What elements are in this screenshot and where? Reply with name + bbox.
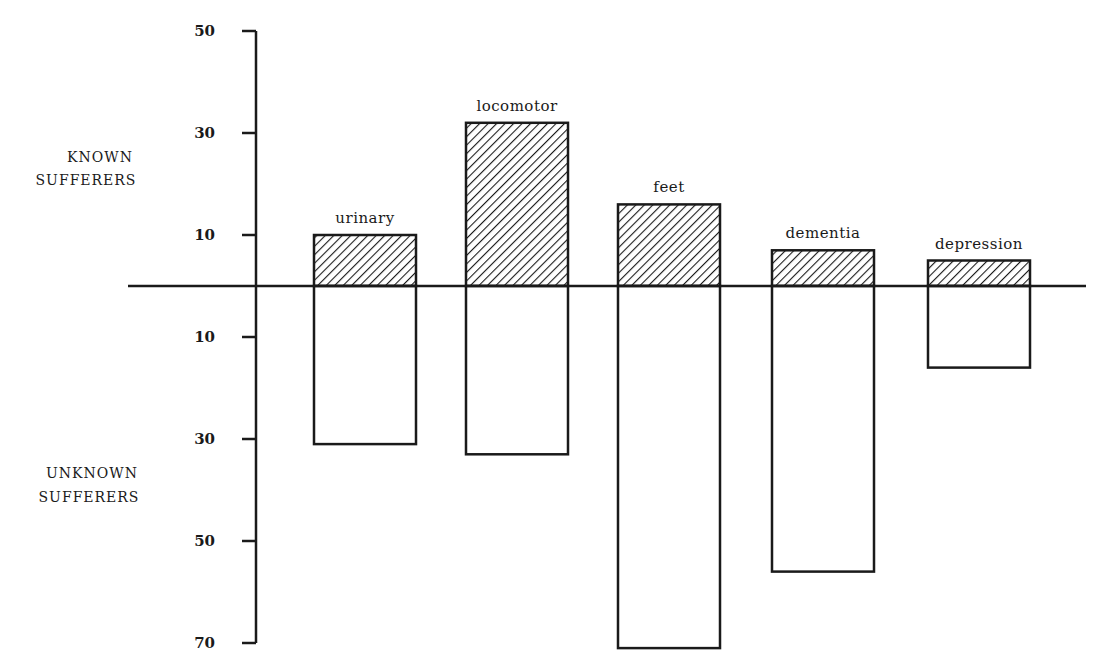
known-label-line1: KNOWN [67, 149, 133, 165]
bar-group-urinary: urinary [314, 209, 416, 444]
bar-label: urinary [335, 209, 394, 227]
bar-group-depression: depression [928, 235, 1030, 368]
known-bar [314, 235, 416, 286]
diverging-bar-chart: KNOWN SUFFERERS UNKNOWN SUFFERERS 503010… [0, 0, 1104, 666]
unknown-label-line1: UNKNOWN [46, 465, 138, 481]
known-bar [466, 123, 568, 286]
unknown-bar [928, 286, 1030, 368]
y-tick-label: 10 [194, 226, 215, 244]
bars: urinarylocomotorfeetdementiadepression [314, 97, 1030, 648]
unknown-bar [314, 286, 416, 444]
bar-group-dementia: dementia [772, 224, 874, 571]
bar-label: locomotor [476, 97, 558, 115]
y-tick-label: 10 [194, 328, 215, 346]
known-bar [928, 261, 1030, 287]
known-bar [772, 250, 874, 286]
bar-label: dementia [785, 224, 860, 242]
y-tick-label: 70 [194, 634, 215, 652]
bar-label: depression [935, 235, 1023, 253]
y-tick-label: 50 [194, 532, 215, 550]
known-bar [618, 204, 720, 286]
y-tick-label: 30 [194, 124, 215, 142]
side-labels: KNOWN SUFFERERS UNKNOWN SUFFERERS [36, 149, 140, 505]
unknown-label-line2: SUFFERERS [39, 489, 140, 505]
y-tick-label: 30 [194, 430, 215, 448]
unknown-bar [772, 286, 874, 572]
bar-label: feet [653, 178, 684, 196]
unknown-bar [466, 286, 568, 454]
bar-group-feet: feet [618, 178, 720, 648]
unknown-bar [618, 286, 720, 648]
y-axis: 50301010305070 [194, 22, 256, 652]
known-label-line2: SUFFERERS [36, 172, 137, 188]
bar-group-locomotor: locomotor [466, 97, 568, 455]
y-tick-label: 50 [194, 22, 215, 40]
